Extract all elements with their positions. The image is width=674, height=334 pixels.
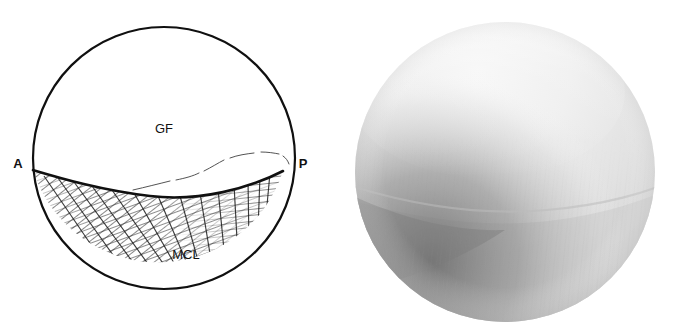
label-anterior: A — [13, 156, 23, 171]
label-glenoid-fossa: GF — [155, 121, 173, 136]
label-middle-glenohumeral-ligament: MCL — [172, 247, 199, 262]
figure-root: GF MCL A P — [0, 0, 674, 334]
schematic-panel: GF MCL A P — [0, 0, 337, 334]
photograph-panel — [337, 0, 674, 334]
photo-vignette — [337, 0, 674, 334]
label-posterior: P — [299, 156, 308, 171]
arthroscopic-photo — [337, 0, 674, 334]
